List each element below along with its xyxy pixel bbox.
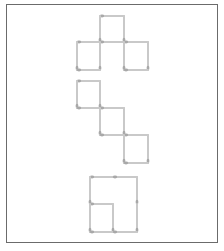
match-head-icon [77,69,81,72]
square-with-inner-square [89,176,139,234]
matchstick [136,204,139,232]
match-head-icon [124,162,128,165]
matchstick [100,134,124,137]
matchstick [76,42,79,70]
matchstick [77,80,100,83]
matchstick [89,177,92,204]
matchstick [123,108,126,135]
match-head-icon [77,107,81,110]
matchstick [100,15,124,18]
match-head-icon [113,176,117,179]
matchstick [124,41,148,44]
matchstick [77,41,100,44]
matchstick [112,204,115,232]
matchstick [124,69,148,72]
matchstick [99,108,102,135]
matchstick [124,134,148,137]
matchstick [123,135,126,163]
matchstick [90,176,113,179]
matchstick [76,81,79,108]
matchstick [100,107,124,110]
matchstick [113,176,137,179]
matchstick [90,231,113,234]
matchstick-canvas [0,0,224,251]
matchstick [100,41,124,44]
matchstick [90,203,113,206]
match-head-icon [90,231,94,234]
matchstick [113,231,137,234]
matchstick [147,42,150,70]
matchstick [124,162,148,165]
matchstick [99,42,102,70]
matchstick [147,135,150,163]
matchstick [99,16,102,42]
t-shape-three-squares [76,15,150,72]
match-head-icon [113,231,117,234]
match-head-icon [100,134,104,137]
matchstick [77,69,100,72]
matchstick [99,81,102,108]
matchstick [136,177,139,204]
matchstick [77,107,100,110]
matchstick [123,42,126,70]
matchstick [123,16,126,42]
match-head-icon [124,69,128,72]
matchstick [89,204,92,232]
diagonal-staircase-three-squares [76,80,150,165]
